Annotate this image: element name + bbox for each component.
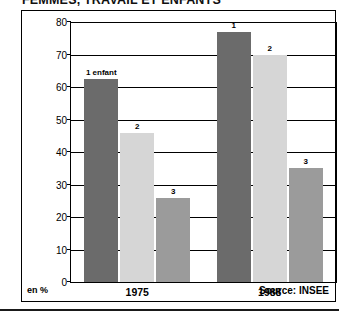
bar-value-label: 1 [232,21,236,30]
gridline [71,55,336,56]
bar: 1 enfant [84,79,118,282]
y-axis-tick-mark [67,184,71,185]
y-axis-tick-label: 80 [56,17,67,28]
page-title: FEMMES, TRAVAIL ET ENFANTS [22,0,322,9]
y-axis-tick-mark [67,21,71,22]
unit-note: en % [27,285,48,295]
y-axis-tick-mark [67,216,71,217]
y-axis-tick-label: 50 [56,114,67,125]
y-axis-tick-label: 70 [56,49,67,60]
bar: 1 [217,32,251,282]
bar-value-label: 1 enfant [86,68,117,77]
bar-value-label: 2 [135,122,139,131]
y-axis-tick-mark [67,119,71,120]
bar: 2 [120,133,154,283]
bar: 3 [289,168,323,282]
y-axis-tick-mark [67,86,71,87]
page-bottom-rule [0,309,339,311]
bar: 2 [253,55,287,283]
y-axis-tick-mark [67,151,71,152]
chart-frame: 010203040506070801 enfant2319751231988 e… [21,10,336,302]
x-axis-category-label: 1975 [126,286,149,298]
bar-value-label: 3 [304,157,308,166]
y-axis-tick-label: 10 [56,244,67,255]
bar: 3 [156,198,190,283]
bar-value-label: 2 [268,44,272,53]
plot-area: 010203040506070801 enfant2319751231988 [70,22,337,283]
y-axis-tick-label: 60 [56,82,67,93]
gridline [71,22,336,23]
y-axis-tick-label: 30 [56,179,67,190]
y-axis-tick-label: 20 [56,212,67,223]
y-axis-tick-mark [67,281,71,282]
y-axis-tick-mark [67,54,71,55]
y-axis-tick-mark [67,249,71,250]
chart-page: FEMMES, TRAVAIL ET ENFANTS L'Histoire, n… [0,0,339,313]
source-note: Source: INSEE [259,285,329,296]
bar-value-label: 3 [171,187,175,196]
y-axis-tick-label: 40 [56,147,67,158]
y-axis-tick-label: 0 [61,277,67,288]
